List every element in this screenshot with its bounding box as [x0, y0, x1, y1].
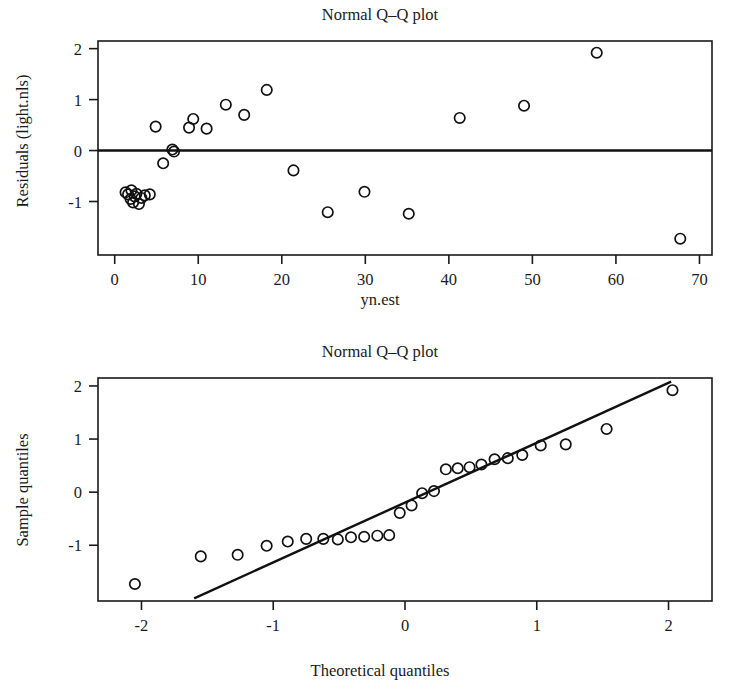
axis-ticks-bottom: [89, 386, 669, 610]
x-tick-label: 2: [664, 616, 672, 635]
x-axis-label-top: yn.est: [361, 290, 400, 309]
data-point: [517, 450, 527, 460]
data-point: [301, 534, 311, 544]
x-tick-label: 30: [357, 270, 374, 289]
axis-tick-labels-bottom: -2-1012-1012: [68, 377, 672, 635]
data-point: [667, 385, 677, 395]
axis-tick-labels-top: 010203040506070-1012: [68, 40, 707, 289]
data-point: [561, 439, 571, 449]
data-point: [359, 187, 369, 197]
data-point: [592, 48, 602, 58]
x-axis-label-bottom: Theoretical quantiles: [311, 661, 450, 680]
data-point: [384, 530, 394, 540]
residuals-plot-svg: Normal Q–Q plot 010203040506070-1012 yn.…: [0, 0, 731, 320]
x-tick-label: 40: [441, 270, 458, 289]
data-point: [130, 579, 140, 589]
data-point: [372, 530, 382, 540]
axis-ticks-top: [89, 49, 699, 264]
x-tick-label: 70: [691, 270, 708, 289]
x-tick-label: 10: [190, 270, 207, 289]
data-point: [288, 165, 298, 175]
data-point: [262, 85, 272, 95]
data-point: [441, 464, 451, 474]
data-point: [239, 110, 249, 120]
data-point: [519, 101, 529, 111]
y-tick-label: 0: [74, 142, 82, 161]
qq-reference-line: [194, 382, 671, 599]
data-point: [201, 123, 211, 133]
data-point: [221, 99, 231, 109]
qqline: [194, 382, 671, 599]
x-tick-label: 50: [524, 270, 541, 289]
y-axis-label-bottom: Sample quantiles: [13, 433, 32, 546]
data-point: [188, 114, 198, 124]
y-tick-label: -1: [68, 536, 82, 555]
x-tick-label: 60: [608, 270, 625, 289]
data-point: [323, 207, 333, 217]
y-tick-label: 2: [74, 377, 82, 396]
plot-title-bottom: Normal Q–Q plot: [322, 342, 439, 361]
data-point: [675, 233, 685, 243]
data-point: [283, 536, 293, 546]
y-tick-label: 1: [74, 430, 82, 449]
residuals-plot-panel: Normal Q–Q plot 010203040506070-1012 yn.…: [0, 0, 731, 320]
data-point: [346, 532, 356, 542]
data-points-top: [120, 48, 685, 244]
x-tick-label: -2: [135, 616, 149, 635]
x-tick-label: 0: [111, 270, 119, 289]
data-point: [601, 424, 611, 434]
plot-frame-top: [98, 41, 712, 255]
x-tick-label: 20: [274, 270, 291, 289]
x-tick-label: 1: [533, 616, 541, 635]
data-point: [232, 550, 242, 560]
x-tick-label: -1: [266, 616, 280, 635]
y-tick-label: 0: [74, 483, 82, 502]
data-point: [395, 508, 405, 518]
data-point: [404, 209, 414, 219]
plot-title-top: Normal Q–Q plot: [322, 5, 439, 24]
data-point: [359, 532, 369, 542]
y-tick-label: 1: [74, 91, 82, 110]
data-point: [333, 534, 343, 544]
y-tick-label: 2: [74, 40, 82, 59]
data-point: [464, 462, 474, 472]
data-point: [406, 500, 416, 510]
data-point: [150, 121, 160, 131]
data-point: [453, 463, 463, 473]
figure-container: Normal Q–Q plot 010203040506070-1012 yn.…: [0, 0, 731, 689]
plot-frame-bottom: [98, 378, 712, 601]
x-tick-label: 0: [401, 616, 409, 635]
data-point: [196, 551, 206, 561]
qq-plot-svg: Normal Q–Q plot-2-1012-1012Theoretical q…: [0, 320, 731, 689]
data-point: [455, 113, 465, 123]
y-axis-label-top: Residuals (light.nls): [13, 75, 32, 208]
data-point: [261, 541, 271, 551]
y-tick-label: -1: [68, 193, 82, 212]
data-point: [158, 158, 168, 168]
qq-plot-panel: Normal Q–Q plot-2-1012-1012Theoretical q…: [0, 320, 731, 689]
